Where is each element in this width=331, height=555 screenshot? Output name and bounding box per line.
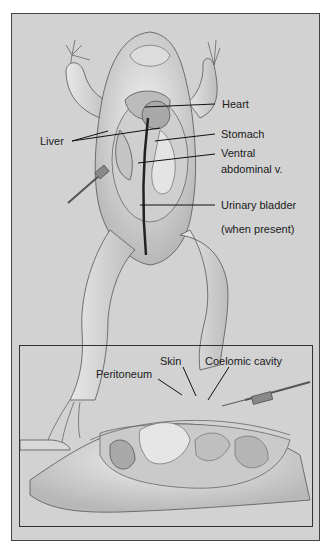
label-heart: Heart	[222, 98, 249, 110]
label-skin: Skin	[160, 355, 181, 367]
label-when-present: (when present)	[221, 223, 294, 235]
label-ventral: Ventral	[221, 147, 255, 159]
label-liver: Liver	[40, 135, 64, 147]
label-coelomic-cavity: Coelomic cavity	[205, 355, 282, 367]
lateral-inset-frame	[19, 345, 313, 527]
label-urinary-bladder: Urinary bladder	[221, 199, 296, 211]
label-abdominal-v: abdominal v.	[221, 163, 283, 175]
label-peritoneum: Peritoneum	[96, 368, 152, 380]
label-stomach: Stomach	[221, 128, 264, 140]
